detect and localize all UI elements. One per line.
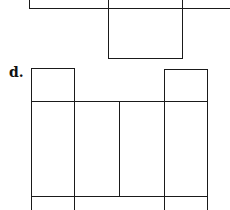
main-divider-1 <box>31 101 32 210</box>
upper-top-line <box>29 8 230 9</box>
upper-flap-left-edge <box>108 0 109 59</box>
main-divider-4 <box>164 101 165 210</box>
flap-right-side-l <box>164 69 165 102</box>
main-divider-5 <box>207 101 208 210</box>
upper-flap-bottom-edge <box>108 58 183 59</box>
flap-right-side-r <box>207 69 208 102</box>
figure-label: d. <box>9 64 24 80</box>
main-divider-3 <box>119 101 120 197</box>
upper-flap-right-edge <box>182 0 183 59</box>
flap-right-top <box>164 69 208 70</box>
flap-left-side-l <box>31 68 32 102</box>
flap-left-side-r <box>74 68 75 102</box>
flap-left-top <box>31 68 75 69</box>
main-divider-2 <box>74 101 75 210</box>
